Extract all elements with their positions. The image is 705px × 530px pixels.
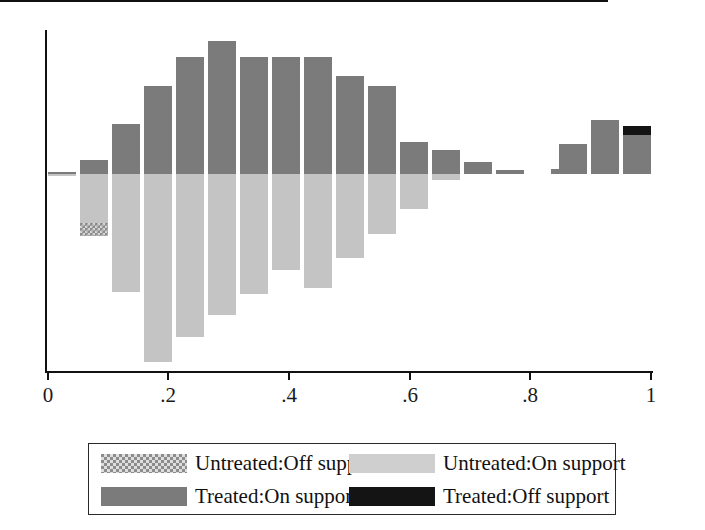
bar-untreated-on-support: [304, 174, 332, 288]
y-axis-line: [45, 30, 47, 373]
bar-treated-on-support: [272, 57, 300, 174]
bar-treated-on-support: [432, 150, 460, 174]
x-axis-line: [45, 371, 653, 373]
legend-swatch-untreated-on-icon: [349, 454, 435, 473]
bar-treated-on-support: [496, 170, 524, 174]
x-axis-tick-label: 0: [43, 383, 54, 407]
chart-legend: Untreated:Off support Untreated:On suppo…: [88, 443, 616, 515]
bar-treated-on-support: [240, 57, 268, 174]
bar-untreated-on-support: [176, 174, 204, 337]
legend-entry-treated-off: Treated:Off support: [347, 484, 615, 508]
x-axis-tick-label: .2: [160, 383, 176, 407]
bar-treated-on-support: [623, 135, 651, 174]
bar-untreated-on-support: [144, 174, 172, 362]
bar-untreated-on-support: [272, 174, 300, 270]
bar-treated-on-support: [80, 160, 108, 174]
bar-treated-on-support: [591, 120, 619, 174]
bar-untreated-on-support: [112, 174, 140, 292]
bar-treated-on-support: [368, 86, 396, 174]
propensity-score-histogram: 0.2.4.6.81 Untreated:Off support Untreat…: [0, 0, 705, 530]
bar-treated-on-support: [176, 57, 204, 174]
x-axis-tick-label: 1: [646, 383, 657, 407]
x-axis-tick-label: .4: [281, 383, 297, 407]
bar-untreated-on-support: [240, 174, 268, 294]
x-axis-tick: [529, 373, 531, 380]
bar-treated-on-support: [336, 76, 364, 174]
legend-swatch-treated-on-icon: [101, 487, 187, 506]
x-axis-tick: [288, 373, 290, 380]
legend-label-treated-off: Treated:Off support: [443, 484, 609, 508]
plot-area: 0.2.4.6.81: [0, 0, 705, 400]
bar-treated-off-support: [623, 126, 651, 135]
bar-untreated-off-support: [80, 223, 108, 236]
legend-label-untreated-on: Untreated:On support: [443, 451, 626, 475]
bar-untreated-on-support: [336, 174, 364, 258]
bar-treated-on-support: [559, 144, 587, 174]
zero-reference-line: [0, 0, 608, 2]
legend-row: Untreated:Off support Untreated:On suppo…: [89, 446, 615, 480]
x-axis-tick: [650, 373, 652, 380]
legend-entry-untreated-on: Untreated:On support: [347, 451, 615, 475]
bar-untreated-on-support: [208, 174, 236, 315]
bar-treated-on-support: [304, 57, 332, 174]
bar-treated-on-support: [112, 124, 140, 174]
x-axis-tick: [167, 373, 169, 380]
bar-untreated-on-support: [80, 174, 108, 223]
legend-row: Treated:On support Treated:Off support: [89, 479, 615, 513]
x-axis-tick: [409, 373, 411, 380]
bar-treated-on-support: [464, 162, 492, 174]
legend-swatch-treated-off-icon: [349, 487, 435, 506]
legend-entry-untreated-off: Untreated:Off support: [89, 451, 347, 475]
legend-swatch-untreated-off-icon: [101, 454, 187, 473]
bar-untreated-on-support: [432, 174, 460, 180]
bar-untreated-on-support: [400, 174, 428, 209]
legend-label-treated-on: Treated:On support: [195, 484, 358, 508]
x-axis-tick-label: .8: [522, 383, 538, 407]
bar-treated-on-support: [400, 142, 428, 174]
x-axis-tick: [47, 373, 49, 380]
legend-entry-treated-on: Treated:On support: [89, 484, 347, 508]
x-axis-tick-label: .6: [402, 383, 418, 407]
bar-treated-on-support: [208, 41, 236, 174]
bar-untreated-on-support: [48, 174, 76, 176]
bar-untreated-on-support: [368, 174, 396, 234]
bar-treated-on-support: [144, 86, 172, 174]
